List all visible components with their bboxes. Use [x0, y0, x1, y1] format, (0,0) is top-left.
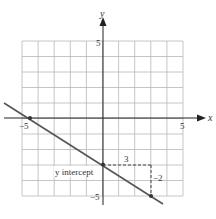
- x-min-tick-label: −5: [19, 121, 29, 131]
- x-max-tick-label: 5: [180, 121, 185, 131]
- y-intercept-point: [101, 163, 105, 167]
- run-label: 3: [124, 154, 129, 164]
- rise-label: −2: [153, 173, 163, 183]
- coordinate-graph: x y −5 5 5 −5 3 −2 y intercept: [0, 0, 216, 219]
- y-max-tick-label: 5: [96, 38, 101, 48]
- y-intercept-label: y intercept: [55, 167, 94, 177]
- y-min-tick-label: −5: [90, 192, 100, 202]
- point-3-neg5: [149, 194, 153, 198]
- x-axis-arrow-icon: [197, 115, 206, 122]
- y-axis-label: y: [99, 8, 105, 19]
- x-axis-label: x: [207, 112, 213, 123]
- x-intercept-point: [28, 116, 32, 120]
